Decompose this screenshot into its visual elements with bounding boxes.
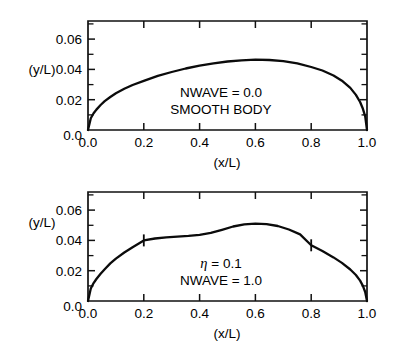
figure-container: 0.06 0.04 0.02 0.0 (y/L) 0.0 0.2 0.4 0.6… <box>0 0 395 355</box>
top-xaxis-ticks <box>144 123 311 130</box>
top-right-axis-ticks <box>360 24 367 115</box>
bottom-x-tick-labels: 0.0 0.2 0.4 0.6 0.8 1.0 <box>79 306 377 321</box>
bottom-y-axis-label: (y/L) <box>29 215 56 230</box>
top-xtick-label-0: 0.0 <box>79 135 98 150</box>
top-x-axis-label: (x/L) <box>214 155 241 170</box>
top-annotations: NWAVE = 0.0 SMOOTH BODY <box>170 85 271 117</box>
top-y-tick-labels: 0.06 0.04 0.02 0.0 <box>56 32 83 143</box>
bottom-panel-svg: 0.06 0.04 0.02 0.0 (y/L) 0.0 0.2 0.4 0.6… <box>0 177 395 354</box>
top-ytick-label-0: 0.06 <box>56 32 82 47</box>
eta-value: = 0.1 <box>208 256 242 271</box>
bottom-xtick-label-3: 0.6 <box>246 306 265 321</box>
bottom-annotation-eta: η = 0.1 <box>200 255 241 271</box>
top-x-tick-labels: 0.0 0.2 0.4 0.6 0.8 1.0 <box>79 135 377 150</box>
top-xtick-label-3: 0.6 <box>246 135 265 150</box>
bottom-xtick-label-1: 0.2 <box>134 306 153 321</box>
bottom-annotation-nwave: NWAVE = 1.0 <box>180 273 262 288</box>
bottom-xaxis-ticks <box>144 294 311 301</box>
bottom-topaxis-ticks <box>144 192 311 199</box>
chart-panel-top: 0.06 0.04 0.02 0.0 (y/L) 0.0 0.2 0.4 0.6… <box>0 0 395 177</box>
top-xtick-label-2: 0.4 <box>190 135 209 150</box>
eta-symbol: η <box>200 255 207 271</box>
bottom-xtick-label-5: 1.0 <box>358 306 377 321</box>
bottom-ytick-label-0: 0.06 <box>56 203 82 218</box>
bottom-ytick-label-1: 0.04 <box>56 233 83 248</box>
top-yaxis-ticks <box>88 24 95 115</box>
bottom-ytick-label-2: 0.02 <box>56 264 82 279</box>
top-annotation-smooth-body: SMOOTH BODY <box>170 102 271 117</box>
top-xtick-label-5: 1.0 <box>358 135 377 150</box>
bottom-right-axis-ticks <box>360 195 367 286</box>
bottom-xtick-label-4: 0.8 <box>302 306 321 321</box>
bottom-annotations: η = 0.1 NWAVE = 1.0 <box>180 255 262 288</box>
bottom-xtick-label-0: 0.0 <box>79 306 98 321</box>
top-topaxis-ticks <box>144 21 311 28</box>
top-ytick-label-1: 0.04 <box>56 62 83 77</box>
bottom-x-axis-label: (x/L) <box>214 326 241 341</box>
top-annotation-nwave: NWAVE = 0.0 <box>180 85 262 100</box>
top-y-axis-label: (y/L) <box>29 62 56 77</box>
top-xtick-label-1: 0.2 <box>134 135 153 150</box>
chart-panel-bottom: 0.06 0.04 0.02 0.0 (y/L) 0.0 0.2 0.4 0.6… <box>0 177 395 354</box>
bottom-y-tick-labels: 0.06 0.04 0.02 0.0 <box>56 203 83 314</box>
bottom-xtick-label-2: 0.4 <box>190 306 209 321</box>
top-ytick-label-2: 0.02 <box>56 93 82 108</box>
bottom-yaxis-ticks <box>88 195 95 286</box>
top-panel-svg: 0.06 0.04 0.02 0.0 (y/L) 0.0 0.2 0.4 0.6… <box>0 0 395 177</box>
top-xtick-label-4: 0.8 <box>302 135 321 150</box>
